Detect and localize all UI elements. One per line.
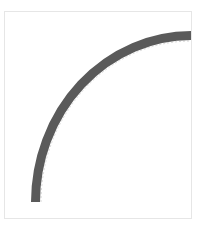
diagram-canvas — [0, 0, 203, 227]
